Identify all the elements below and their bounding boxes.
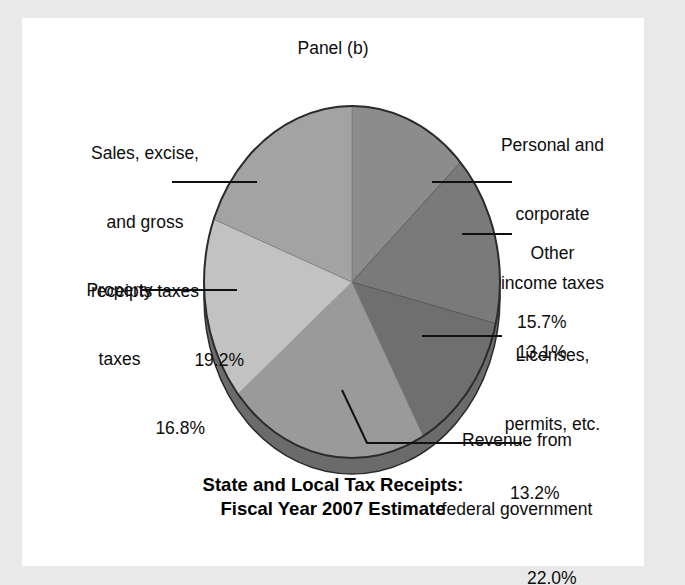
label-other-line1: Other (465, 242, 640, 265)
label-property-taxes: Property taxes 16.8% (22, 233, 217, 486)
label-property-line2: taxes (22, 348, 217, 371)
label-sales-line2: and gross (40, 211, 250, 234)
figure-panel: Panel (b) Sales, excise, and gross recei… (22, 18, 644, 566)
label-property-line1: Property (22, 279, 217, 302)
label-property-value: 16.8% (22, 417, 217, 440)
chart-title-line2: Fiscal Year 2007 Estimate (22, 497, 644, 521)
label-federal-value: 22.0% (392, 567, 642, 585)
label-federal-line1: Revenue from (392, 429, 642, 452)
label-sales-line1: Sales, excise, (40, 142, 250, 165)
label-licenses-line1: Licenses, (465, 344, 640, 367)
chart-title-line1: State and Local Tax Receipts: (22, 473, 644, 497)
pie-slice-0 (352, 106, 461, 282)
panel-caption: Panel (b) (22, 38, 644, 59)
label-income-line1: Personal and (465, 134, 640, 157)
chart-title: State and Local Tax Receipts: Fiscal Yea… (22, 473, 644, 521)
